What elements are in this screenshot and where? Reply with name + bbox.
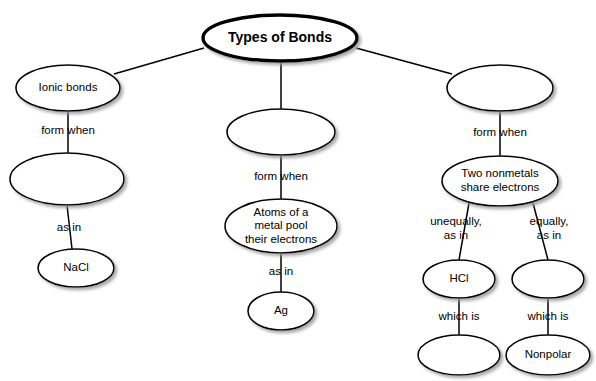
edge-label-lbl-whichis-right: which is xyxy=(527,310,569,322)
node-shape-equal-blank xyxy=(512,260,584,298)
node-equal-blank[interactable] xyxy=(512,260,584,298)
node-ionic-blank[interactable] xyxy=(10,153,124,205)
node-polar-blank[interactable] xyxy=(418,335,500,375)
edge-label-lbl-ionic-asin: as in xyxy=(57,221,81,233)
node-shape-ionic-blank xyxy=(10,153,124,205)
node-label-metal-pool: metal pool xyxy=(254,219,307,231)
node-label-root: Types of Bonds xyxy=(228,29,332,45)
edge-label-lbl-unequally-2: as in xyxy=(444,229,468,241)
edge-label-lbl-metal-asin: as in xyxy=(269,265,293,277)
node-root[interactable]: Types of Bonds xyxy=(203,15,357,61)
node-hcl[interactable]: HCl xyxy=(423,260,495,298)
node-covalent-blank[interactable] xyxy=(447,65,553,111)
nodes-layer: Types of BondsIonic bondsNaClAtoms of am… xyxy=(10,15,590,375)
edge-label-lbl-cov-form: form when xyxy=(473,126,527,138)
node-shape-polar-blank xyxy=(418,335,500,375)
edge-label-lbl-metal-form: form when xyxy=(254,170,308,182)
edge-root-ionic xyxy=(114,48,204,74)
concept-map-svg: Types of BondsIonic bondsNaClAtoms of am… xyxy=(0,0,596,381)
node-nonpolar[interactable]: Nonpolar xyxy=(506,335,590,375)
node-metallic-blank[interactable] xyxy=(227,109,335,155)
edge-root-covalent xyxy=(356,48,452,74)
node-label-ag: Ag xyxy=(274,304,288,316)
node-label-two-nonmetals: share electrons xyxy=(461,181,540,193)
node-two-nonmetals[interactable]: Two nonmetalsshare electrons xyxy=(442,156,558,206)
node-label-hcl: HCl xyxy=(449,272,468,284)
node-label-nonpolar: Nonpolar xyxy=(525,348,572,360)
node-ionic[interactable]: Ionic bonds xyxy=(16,65,120,111)
node-shape-covalent-blank xyxy=(447,65,553,111)
node-label-ionic: Ionic bonds xyxy=(39,81,98,93)
node-label-two-nonmetals: Two nonmetals xyxy=(461,167,539,179)
edge-label-lbl-unequally-1: unequally, xyxy=(430,215,482,227)
node-label-metal-pool: their electrons xyxy=(245,233,317,245)
node-metal-pool[interactable]: Atoms of ametal pooltheir electrons xyxy=(225,199,337,253)
node-nacl[interactable]: NaCl xyxy=(38,249,114,287)
diagram-canvas: Types of BondsIonic bondsNaClAtoms of am… xyxy=(0,0,596,381)
edge-label-lbl-equally-1: equally, xyxy=(530,215,569,227)
node-label-nacl: NaCl xyxy=(63,261,89,273)
edge-label-lbl-ionic-form: form when xyxy=(41,124,95,136)
node-ag[interactable]: Ag xyxy=(248,292,314,330)
node-label-metal-pool: Atoms of a xyxy=(254,206,310,218)
node-shape-metallic-blank xyxy=(227,109,335,155)
edge-label-lbl-equally-2: as in xyxy=(537,229,561,241)
edge-label-lbl-whichis-left: which is xyxy=(438,310,480,322)
